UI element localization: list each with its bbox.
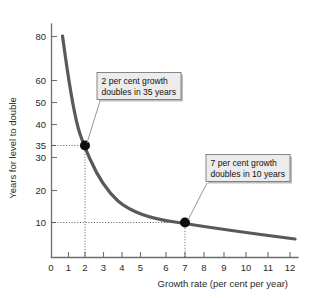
x-tick-label-7: 7 bbox=[182, 262, 187, 273]
x-axis-tick-labels: 0 1 2 3 4 5 6 7 8 9 10 11 12 bbox=[48, 262, 295, 273]
y-tick-label-30: 30 bbox=[35, 152, 46, 163]
y-tick-label-50: 50 bbox=[35, 97, 46, 108]
y-tick-label-35: 35 bbox=[35, 140, 46, 151]
x-axis-title: Growth rate (per cent per year) bbox=[158, 278, 288, 289]
annotation-two-line2: doubles in 35 years bbox=[102, 87, 177, 97]
doubling-time-curve bbox=[63, 36, 296, 239]
x-tick-label-9: 9 bbox=[221, 262, 226, 273]
x-tick-label-12: 12 bbox=[285, 262, 296, 273]
chart-figure: 80 60 50 40 35 30 20 10 0 1 2 bbox=[0, 0, 318, 298]
y-axis-tick-labels: 80 60 50 40 35 30 20 10 bbox=[35, 31, 46, 228]
y-axis-title: Years for level to double bbox=[7, 97, 18, 199]
marker-two-per-cent bbox=[80, 141, 90, 151]
y-axis-ticks bbox=[52, 37, 58, 223]
x-tick-label-5: 5 bbox=[138, 262, 143, 273]
y-tick-label-20: 20 bbox=[35, 185, 46, 196]
x-tick-label-11: 11 bbox=[263, 262, 273, 273]
x-axis-ticks bbox=[69, 252, 291, 258]
x-tick-label-10: 10 bbox=[241, 262, 252, 273]
annotation-seven-line1: 7 per cent growth bbox=[211, 158, 278, 168]
y-tick-label-80: 80 bbox=[35, 31, 46, 42]
leader-line-seven-per-cent bbox=[188, 183, 207, 220]
x-tick-label-1: 1 bbox=[66, 262, 71, 273]
annotation-seven-per-cent[interactable]: 7 per cent growth doubles in 10 years bbox=[206, 155, 292, 184]
annotation-two-per-cent[interactable]: 2 per cent growth doubles in 35 years bbox=[97, 73, 183, 102]
annotation-two-line1: 2 per cent growth bbox=[102, 76, 169, 86]
growth-rate-doubling-chart: 80 60 50 40 35 30 20 10 0 1 2 bbox=[0, 0, 318, 298]
y-tick-label-40: 40 bbox=[35, 119, 46, 130]
x-tick-label-4: 4 bbox=[119, 262, 124, 273]
x-tick-label-0: 0 bbox=[48, 262, 53, 273]
y-tick-label-60: 60 bbox=[35, 75, 46, 86]
y-tick-label-10: 10 bbox=[35, 217, 46, 228]
x-tick-label-6: 6 bbox=[163, 262, 168, 273]
leader-line-two-per-cent bbox=[87, 101, 100, 143]
annotation-seven-line2: doubles in 10 years bbox=[211, 169, 286, 179]
x-tick-label-3: 3 bbox=[101, 262, 106, 273]
x-tick-label-2: 2 bbox=[82, 262, 87, 273]
x-tick-label-8: 8 bbox=[201, 262, 206, 273]
